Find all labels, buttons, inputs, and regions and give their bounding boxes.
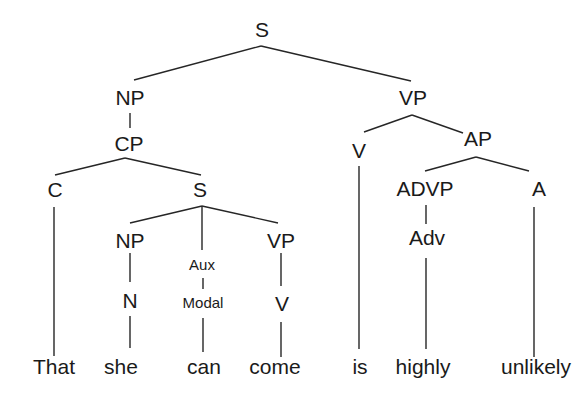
node-cp: CP bbox=[114, 132, 143, 155]
node-vp_sub: VP bbox=[267, 229, 295, 252]
edge-ap-to-a bbox=[476, 157, 529, 171]
edge-cp-to-c bbox=[55, 158, 125, 175]
word-she: she bbox=[104, 355, 138, 378]
word-is: is bbox=[352, 355, 367, 378]
node-ap: AP bbox=[464, 127, 492, 150]
node-v_main: V bbox=[352, 139, 366, 162]
node-modal: Modal bbox=[183, 294, 224, 311]
word-can: can bbox=[187, 355, 221, 378]
node-c: C bbox=[47, 178, 62, 201]
node-adv: Adv bbox=[409, 226, 446, 249]
node-aux: Aux bbox=[189, 256, 215, 273]
node-a: A bbox=[532, 177, 546, 200]
edge-s_sub-to-vp_sub bbox=[202, 206, 278, 223]
word-unlikely: unlikely bbox=[501, 355, 572, 378]
terminal-words: Thatshecancomeishighlyunlikely bbox=[33, 355, 572, 378]
node-n: N bbox=[122, 289, 137, 312]
node-np_sub: NP bbox=[115, 229, 144, 252]
edge-vp_main-to-v_main bbox=[364, 115, 412, 132]
node-vp_main: VP bbox=[399, 86, 427, 109]
edge-s_root-to-vp_main bbox=[261, 46, 411, 81]
edge-s_root-to-np_main bbox=[134, 46, 261, 80]
node-np_main: NP bbox=[115, 86, 144, 109]
syntax-tree-diagram: SNPCPVPVAPCSADVPANPAuxVPAdvNModalV Thats… bbox=[0, 0, 581, 402]
node-advp: ADVP bbox=[396, 177, 453, 200]
edge-cp-to-s_sub bbox=[125, 158, 201, 175]
node-v_sub: V bbox=[275, 292, 289, 315]
tree-nodes: SNPCPVPVAPCSADVPANPAuxVPAdvNModalV bbox=[47, 18, 546, 315]
word-come: come bbox=[249, 355, 300, 378]
word-that: That bbox=[33, 355, 75, 378]
node-s_root: S bbox=[255, 18, 269, 41]
edge-vp_main-to-ap bbox=[412, 115, 463, 133]
edge-s_sub-to-np_sub bbox=[130, 206, 202, 223]
edge-ap-to-advp bbox=[425, 157, 476, 171]
node-s_sub: S bbox=[193, 178, 207, 201]
word-highly: highly bbox=[396, 355, 451, 378]
